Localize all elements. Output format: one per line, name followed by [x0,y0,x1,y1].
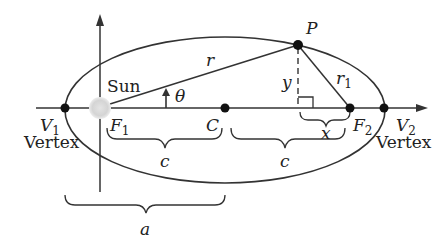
label-a: a [140,219,150,239]
label-c-right: c [280,151,290,171]
label-f1: F1 [109,115,129,138]
label-c-left: c [160,151,170,171]
label-r: r [206,50,215,70]
label-x: x [321,123,331,143]
vertex-v1-point [61,104,70,113]
ellipse-orbit-diagram: P r r1 θ Sun y x V1 Vertex F1 C F2 V2 Ve… [0,0,446,244]
label-r1: r1 [336,68,352,91]
label-f2: F2 [352,115,372,138]
focus-f2-point [346,104,355,113]
right-angle-marker [298,97,313,108]
label-c: C [206,115,219,135]
point-p [293,40,303,50]
center-c-point [221,104,230,113]
sun-icon [89,97,111,119]
label-vertex-right: Vertex [375,132,432,152]
label-p: P [305,18,318,38]
brace-a [65,195,225,213]
vertex-v2-point [380,104,389,113]
y-axis-arrow-icon [96,14,104,26]
label-y: y [281,72,292,92]
theta-arrow-icon [162,88,170,108]
label-theta: θ [175,86,185,106]
label-vertex-left: Vertex [23,132,80,152]
label-sun: Sun [107,76,141,96]
x-axis-arrow-icon [416,104,428,112]
